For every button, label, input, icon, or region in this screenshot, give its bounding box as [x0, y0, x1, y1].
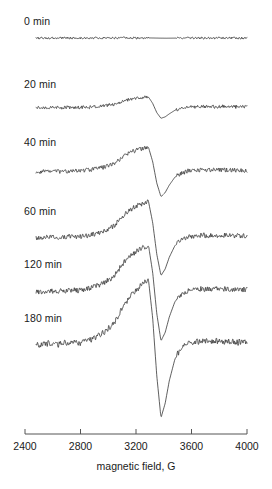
spectra-traces-group	[36, 37, 247, 417]
trace-label-40min: 40 min	[24, 136, 56, 148]
x-tick-label-4000: 4000	[235, 440, 258, 452]
x-tick-label-3200: 3200	[124, 440, 147, 452]
trace-label-20min: 20 min	[24, 78, 56, 90]
x-tick-label-3600: 3600	[180, 440, 203, 452]
spectrum-trace-60-min	[36, 200, 247, 275]
spectrum-trace-0-min	[36, 37, 247, 39]
spectrum-trace-40-min	[36, 146, 247, 196]
x-tick-label-2800: 2800	[69, 440, 92, 452]
x-axis-title: magnetic field, G	[0, 460, 272, 472]
trace-label-0min: 0 min	[24, 15, 50, 27]
trace-label-180min: 180 min	[24, 312, 62, 324]
x-tick-label-2400: 2400	[13, 440, 36, 452]
trace-label-120min: 120 min	[24, 258, 62, 270]
x-axis-group	[25, 429, 247, 434]
trace-label-60min: 60 min	[24, 205, 56, 217]
spectrum-trace-120-min	[36, 245, 247, 340]
epr-spectra-figure: 0 min 20 min 40 min 60 min 120 min 180 m…	[0, 0, 272, 489]
x-axis-ticks	[25, 429, 247, 434]
spectrum-trace-180-min	[36, 279, 247, 417]
spectra-plot-canvas	[0, 0, 272, 489]
spectrum-trace-20-min	[36, 96, 247, 118]
